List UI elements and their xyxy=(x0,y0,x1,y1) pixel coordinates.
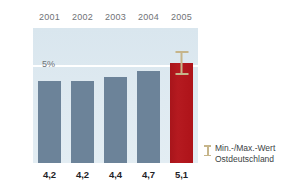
value-label-2004: 4,7 xyxy=(132,167,165,183)
chart-container: 2001 2002 2003 2004 2005 5% 0% xyxy=(0,0,289,191)
value-label-2005: 5,1 xyxy=(165,167,198,183)
x-axis-label-2004: 2004 xyxy=(132,9,165,25)
x-axis-label-2002: 2002 xyxy=(66,9,99,25)
error-bar-line xyxy=(181,51,183,74)
bar-cell-2004 xyxy=(132,28,165,163)
value-label-2001: 4,2 xyxy=(33,167,66,183)
legend-line-1: Min.-/Max.-Wert xyxy=(215,143,275,154)
bar-cell-2001 xyxy=(33,28,66,163)
bar-2002[interactable] xyxy=(71,81,94,163)
bar-cell-2005 xyxy=(165,28,198,163)
x-axis-label-2005: 2005 xyxy=(165,9,198,25)
bar-value-labels: 4,2 4,2 4,4 4,7 5,1 xyxy=(33,167,198,183)
bar-series xyxy=(33,28,198,163)
legend-line-2: Ostdeutschland xyxy=(215,154,275,165)
x-axis-label-2003: 2003 xyxy=(99,9,132,25)
x-axis-label-2001: 2001 xyxy=(33,9,66,25)
legend-text: Min.-/Max.-Wert Ostdeutschland xyxy=(215,143,275,165)
legend: Min.-/Max.-Wert Ostdeutschland xyxy=(204,143,288,165)
bar-2003[interactable] xyxy=(104,77,127,163)
bar-cell-2002 xyxy=(66,28,99,163)
value-label-2002: 4,2 xyxy=(66,167,99,183)
x-axis-category-labels: 2001 2002 2003 2004 2005 xyxy=(33,9,198,25)
error-bar-cap-min xyxy=(175,73,188,75)
bar-2005[interactable] xyxy=(170,63,193,163)
error-bar-icon xyxy=(204,145,211,156)
error-bar-cap-max xyxy=(175,51,188,53)
bar-2001[interactable] xyxy=(38,81,61,163)
value-label-2003: 4,4 xyxy=(99,167,132,183)
bar-2004[interactable] xyxy=(137,71,160,163)
error-bar-2005 xyxy=(175,51,188,74)
bar-cell-2003 xyxy=(99,28,132,163)
